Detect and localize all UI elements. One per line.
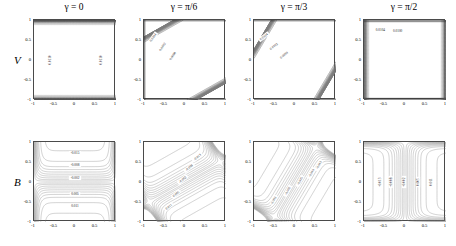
y-tick: -1	[27, 97, 31, 102]
x-tick: -0.5	[270, 101, 277, 106]
x-tick: 0.5	[312, 223, 318, 228]
x-tick: 0.5	[422, 101, 428, 106]
y-tick: 1	[139, 17, 141, 22]
x-tick: -1	[251, 223, 255, 228]
y-tick: -0.5	[134, 77, 141, 82]
y-tick: 0	[29, 179, 31, 184]
contour-label: 0.0110	[99, 55, 103, 65]
y-axis-ticks: 10.50-0.5-1	[17, 141, 31, 221]
panel-title-col2: γ = π/3	[253, 2, 335, 12]
x-tick: 0.5	[92, 223, 98, 228]
y-tick: 0	[29, 57, 31, 62]
axes-b-col1: -0.013-0.008-0.0020.0050.011	[143, 141, 225, 221]
contour-label: -0.013	[378, 177, 382, 186]
y-tick: 1	[359, 139, 361, 144]
y-tick: 0.5	[245, 37, 251, 42]
x-tick: 0	[73, 223, 75, 228]
x-tick: 0.5	[312, 101, 318, 106]
x-tick: -1	[31, 223, 35, 228]
y-tick: 1	[249, 139, 251, 144]
x-tick: -0.5	[270, 223, 277, 228]
x-tick: -0.5	[380, 101, 387, 106]
y-tick: -1	[137, 219, 141, 224]
x-tick: 0	[403, 223, 405, 228]
axes-v-col1: 0.01040.01020.0098	[143, 19, 225, 99]
x-tick: 0	[403, 101, 405, 106]
x-tick: 1	[444, 223, 446, 228]
x-tick: 0.5	[202, 223, 208, 228]
y-axis-ticks: 10.50-0.5-1	[127, 141, 141, 221]
y-tick: 0.5	[25, 159, 31, 164]
contour-label: -0.015	[71, 151, 80, 155]
x-tick: -0.5	[160, 223, 167, 228]
x-tick: -1	[361, 101, 365, 106]
y-tick: 0	[359, 179, 361, 184]
y-axis-ticks: 10.50-0.5-1	[17, 19, 31, 99]
y-tick: 1	[29, 139, 31, 144]
x-tick: 0	[183, 101, 185, 106]
y-tick: -1	[357, 219, 361, 224]
y-tick: 0.5	[245, 159, 251, 164]
x-tick: -0.5	[50, 101, 57, 106]
y-axis-ticks: 10.50-0.5-1	[237, 19, 251, 99]
y-tick: -1	[137, 97, 141, 102]
y-tick: -0.5	[134, 199, 141, 204]
panel-title-col0: γ = 0	[33, 2, 115, 12]
contour-label: -0.002	[71, 176, 80, 180]
contour-label: -0.002	[402, 177, 406, 186]
axes-v-col0: 0.01100.0110	[33, 19, 115, 99]
panel-title-col1: γ = π/6	[143, 2, 225, 12]
x-tick: -1	[251, 101, 255, 106]
y-tick: 0	[249, 179, 251, 184]
axes-b-col3: -0.013-0.008-0.0020.0050.011	[363, 141, 445, 221]
panel-title-col3: γ = π/2	[363, 2, 445, 12]
contour-label: 0.0110	[48, 55, 52, 65]
contour-label: 0.005	[71, 192, 79, 196]
y-axis-ticks: 10.50-0.5-1	[347, 141, 361, 221]
contour-label: 0.005	[416, 178, 420, 186]
contour-label: -0.008	[71, 163, 80, 167]
contour-label: 0.011	[71, 204, 79, 208]
axes-v-col2: 0.01040.01020.0099	[253, 19, 335, 99]
y-tick: 0.5	[135, 37, 141, 42]
x-tick: -0.5	[160, 101, 167, 106]
y-tick: -0.5	[354, 199, 361, 204]
contour-label: 0.0100	[393, 29, 403, 33]
y-tick: 0	[359, 57, 361, 62]
y-tick: 0.5	[25, 37, 31, 42]
x-tick: 0.5	[92, 101, 98, 106]
x-tick: 1	[444, 101, 446, 106]
y-tick: -1	[27, 219, 31, 224]
panel-b-col3: -0.013-0.008-0.0020.0050.011-1-0.500.511…	[333, 124, 456, 244]
x-tick: -1	[361, 223, 365, 228]
x-tick: 0	[293, 223, 295, 228]
contour-label: 0.011	[429, 178, 433, 186]
y-tick: 0.5	[355, 37, 361, 42]
y-tick: -0.5	[244, 77, 251, 82]
y-tick: -0.5	[354, 77, 361, 82]
y-axis-ticks: 10.50-0.5-1	[127, 19, 141, 99]
y-tick: 1	[249, 17, 251, 22]
y-axis-ticks: 10.50-0.5-1	[347, 19, 361, 99]
x-tick: -1	[141, 101, 145, 106]
y-tick: 1	[139, 139, 141, 144]
panel-v-col3: γ = π/20.01040.0100-1-0.500.5110.50-0.5-…	[333, 2, 456, 122]
x-tick: -1	[31, 101, 35, 106]
y-axis-ticks: 10.50-0.5-1	[237, 141, 251, 221]
y-tick: 1	[359, 17, 361, 22]
y-tick: -0.5	[24, 199, 31, 204]
y-tick: -1	[357, 97, 361, 102]
x-tick: 0	[73, 101, 75, 106]
axes-v-col3: 0.01040.0100	[363, 19, 445, 99]
y-tick: 0.5	[355, 159, 361, 164]
y-tick: 1	[29, 17, 31, 22]
axes-b-col0: -0.015-0.008-0.0020.0050.011	[33, 141, 115, 221]
y-tick: 0.5	[135, 159, 141, 164]
x-tick: -1	[141, 223, 145, 228]
figure-contour-grid: V B γ = 00.01100.0110-1-0.500.5110.50-0.…	[0, 0, 456, 246]
y-tick: 0	[249, 57, 251, 62]
y-tick: 0	[139, 179, 141, 184]
y-tick: 0	[139, 57, 141, 62]
y-tick: -0.5	[24, 77, 31, 82]
x-tick: -0.5	[50, 223, 57, 228]
